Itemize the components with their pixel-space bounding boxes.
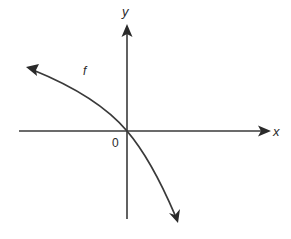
y-axis-label: y [122,5,129,18]
curve-arrow-lower-right-icon [169,209,180,223]
curve-label-f: f [83,65,86,77]
curve-arrow-upper-left-icon [26,64,39,76]
origin-label: 0 [112,137,119,149]
graph-canvas [0,0,291,239]
function-graph: y x 0 f [0,0,291,239]
x-axis-label: x [273,125,280,138]
curve-f [33,70,175,215]
